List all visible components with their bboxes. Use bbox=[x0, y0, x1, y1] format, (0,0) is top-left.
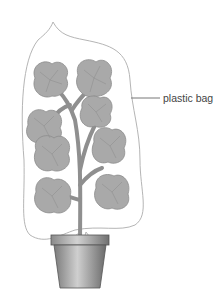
plastic-bag-label: plastic bag bbox=[163, 92, 213, 104]
flower-pot bbox=[51, 235, 109, 288]
plant-illustration bbox=[0, 0, 220, 303]
